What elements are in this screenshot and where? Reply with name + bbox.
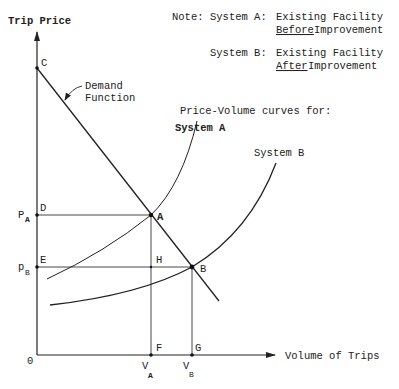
note-prefix: Note:	[172, 11, 204, 23]
svg-text:B: B	[25, 268, 30, 277]
note-system-a-name: System A:	[210, 11, 267, 23]
svg-text:A: A	[25, 215, 30, 224]
svg-text:B: B	[189, 370, 194, 379]
demand-label-line1: Demand	[85, 80, 123, 92]
x-axis-title: Volume of Trips	[285, 350, 380, 362]
point-G	[190, 353, 194, 357]
point-B	[190, 265, 195, 270]
point-H	[150, 266, 152, 268]
point-F	[149, 353, 153, 357]
note-system-b-emph: After	[276, 60, 308, 72]
y-axis-title: Trip Price	[8, 15, 71, 27]
label-G: G	[195, 342, 201, 354]
x-tick-VA: V A	[142, 360, 153, 380]
system-b-label: System B	[254, 147, 304, 159]
point-C	[35, 66, 39, 70]
note-system-b-rest: Improvement	[308, 60, 377, 72]
label-C: C	[41, 57, 47, 69]
note-block: Note: System A: Existing Facility Before…	[172, 11, 383, 72]
point-D	[35, 213, 39, 217]
note-system-a-rest: Improvement	[314, 24, 383, 36]
demand-pointer-arrow	[65, 86, 82, 100]
price-volume-diagram: Trip Price Volume of Trips Note: System …	[0, 0, 399, 389]
x-tick-VB: V B	[183, 360, 194, 379]
svg-text:P: P	[18, 209, 24, 221]
system-b-curve	[50, 163, 276, 305]
y-tick-PB: p B	[18, 261, 30, 277]
svg-text:p: p	[18, 261, 24, 273]
points	[35, 66, 194, 357]
system-a-label: System A	[175, 122, 226, 134]
point-E	[35, 265, 39, 269]
label-origin: 0	[27, 355, 33, 367]
svg-text:A: A	[148, 371, 153, 380]
label-H: H	[156, 254, 162, 266]
note-system-a-emph: Before	[276, 24, 314, 36]
curve-heading: Price-Volume curves for:	[180, 105, 331, 117]
note-system-b-line1: Existing Facility	[276, 47, 383, 59]
system-a-curve	[47, 121, 197, 279]
label-F: F	[156, 342, 162, 354]
demand-label-line2: Function	[85, 92, 135, 104]
y-tick-PA: P A	[18, 209, 30, 224]
label-B: B	[200, 263, 206, 275]
point-A	[149, 213, 153, 217]
label-A: A	[157, 211, 164, 223]
note-system-a-line1: Existing Facility	[276, 11, 383, 23]
label-E: E	[40, 254, 46, 266]
note-system-b-name: System B:	[210, 47, 267, 59]
label-D: D	[40, 202, 46, 214]
